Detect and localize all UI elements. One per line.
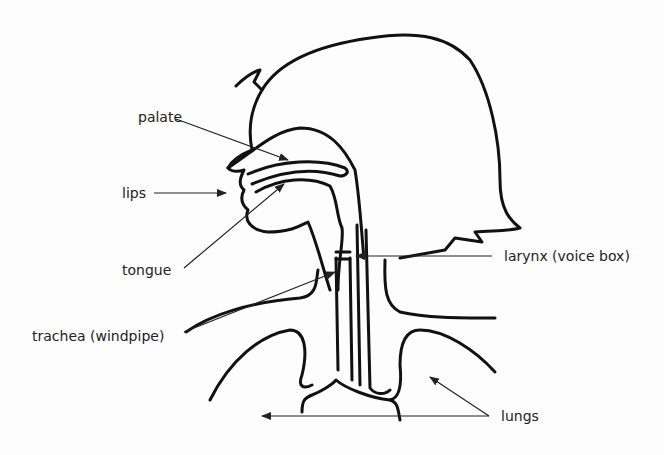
- trachea-leader: [184, 272, 335, 332]
- head-hair-outline: [236, 35, 520, 258]
- label-lungs: lungs: [501, 408, 539, 424]
- neck-back: [385, 260, 495, 318]
- label-tongue: tongue: [122, 262, 171, 278]
- right-lung-outline: [390, 330, 495, 400]
- esophagus-right-wall: [366, 230, 390, 394]
- trachea-right-wall: [350, 258, 352, 380]
- label-larynx: larynx (voice box): [504, 248, 630, 264]
- esophagus-left-wall: [357, 225, 360, 385]
- bronchi-outline: [302, 380, 400, 420]
- lungs-leader-right: [430, 377, 489, 416]
- face-outline: [228, 90, 330, 290]
- tongue-leader: [184, 184, 284, 268]
- larynx-band: [336, 252, 350, 259]
- diagram-drawing: [0, 0, 664, 455]
- speech-organs-diagram: palate lips tongue larynx (voice box) tr…: [0, 0, 664, 455]
- label-palate: palate: [138, 109, 182, 125]
- left-lung-outline: [210, 330, 312, 400]
- label-lips: lips: [122, 185, 146, 201]
- label-trachea: trachea (windpipe): [32, 328, 164, 344]
- trachea-left-wall: [336, 258, 338, 370]
